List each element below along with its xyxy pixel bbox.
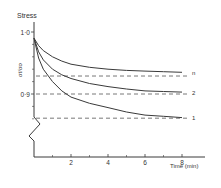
y-axis-title: Stress xyxy=(17,12,37,19)
y-tick-label: 1·0 xyxy=(21,29,31,36)
chart-canvas: 24681·00·9 n21 Stress Time (min) σt/σo xyxy=(0,0,221,188)
x-tick-label: 4 xyxy=(106,159,110,166)
x-tick-label: 2 xyxy=(69,159,73,166)
curve-n xyxy=(34,38,182,72)
curve-2 xyxy=(34,38,182,92)
x-axis-title: Time (min) xyxy=(170,163,198,169)
stress-relaxation-chart: 24681·00·9 n21 Stress Time (min) σt/σo xyxy=(0,0,221,188)
curve-1 xyxy=(34,38,182,117)
y-side-label: σt/σo xyxy=(17,62,23,77)
x-tick-label: 6 xyxy=(143,159,147,166)
asymptote-lines xyxy=(36,76,188,118)
curve-label-1: 1 xyxy=(192,115,196,121)
curve-label-n: n xyxy=(192,70,195,76)
series-curves: n21 xyxy=(34,38,196,121)
axis-labels: Stress Time (min) σt/σo xyxy=(17,12,198,169)
sigma-ratio-label: σt/σo xyxy=(17,62,23,77)
curve-label-2: 2 xyxy=(192,90,196,96)
y-tick-label: 0·9 xyxy=(21,91,31,98)
